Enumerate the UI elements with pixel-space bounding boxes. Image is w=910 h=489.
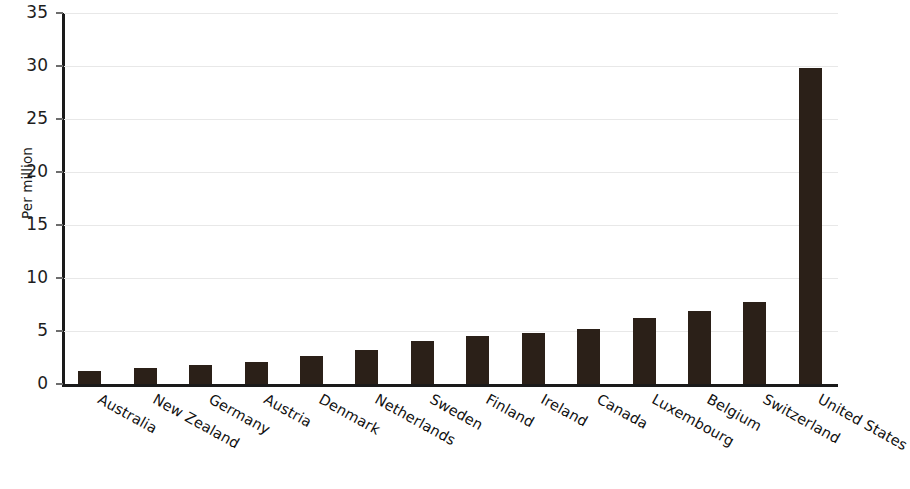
y-axis-tick (56, 224, 63, 226)
gridline (64, 13, 838, 14)
gridline (64, 119, 838, 120)
y-axis-tick-label: 10 (8, 269, 48, 286)
gridline (64, 225, 838, 226)
y-axis-line (62, 13, 65, 384)
x-tick-text: Ireland (538, 391, 590, 430)
y-axis-tick (56, 383, 63, 385)
bar (134, 368, 157, 384)
plot-area: 05101520253035 (62, 13, 838, 384)
bar (300, 356, 323, 384)
bar (633, 318, 656, 384)
y-axis-tick-label: 0 (8, 375, 48, 392)
bar (688, 311, 711, 384)
gridline (64, 331, 838, 332)
x-tick-text: Canada (594, 391, 651, 432)
bar (189, 365, 212, 384)
bar (799, 68, 822, 384)
bar (466, 336, 489, 384)
x-tick-text: Finland (483, 391, 537, 430)
y-axis-tick-label: 5 (8, 322, 48, 339)
y-axis-tick (56, 171, 63, 173)
y-axis-tick-label: 15 (8, 216, 48, 233)
bar (577, 329, 600, 384)
y-axis-tick-label: 25 (8, 110, 48, 127)
bar (245, 362, 268, 384)
x-axis-line (62, 384, 838, 387)
y-axis-tick-label: 30 (8, 57, 48, 74)
gridline (64, 66, 838, 67)
x-tick-text: Australia (95, 391, 160, 437)
bar (522, 333, 545, 384)
y-axis-tick (56, 65, 63, 67)
y-axis-tick-label: 20 (8, 163, 48, 180)
bar (743, 302, 766, 384)
bar (355, 350, 378, 384)
bar (411, 341, 434, 384)
y-axis-tick-label: 35 (8, 4, 48, 21)
y-axis-tick (56, 118, 63, 120)
gridline (64, 172, 838, 173)
y-axis-tick (56, 330, 63, 332)
bar (78, 371, 101, 384)
x-tick-text: Denmark (317, 391, 384, 438)
gridline (64, 278, 838, 279)
y-axis-tick (56, 12, 63, 14)
y-axis-tick (56, 277, 63, 279)
